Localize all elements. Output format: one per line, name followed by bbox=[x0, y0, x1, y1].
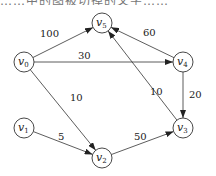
edge-weight-label: 30 bbox=[78, 50, 91, 61]
node-v4: v4 bbox=[173, 52, 193, 72]
arrow-icon bbox=[108, 31, 177, 120]
edge-weight-label: 10 bbox=[70, 92, 83, 103]
node-v1: v1 bbox=[14, 118, 34, 138]
node-v5: v5 bbox=[92, 13, 112, 33]
edge-weight-label: 100 bbox=[40, 28, 59, 39]
edge-weight-label: 50 bbox=[134, 131, 147, 142]
node-v2: v2 bbox=[92, 148, 112, 168]
edge-v3-v5 bbox=[108, 31, 177, 120]
edge-weight-label: 5 bbox=[58, 131, 64, 142]
node-v3: v3 bbox=[173, 118, 193, 138]
edge-weight-label: 60 bbox=[143, 27, 156, 38]
graph-diagram: 1003010550601020 v0v1v2v3v4v5 bbox=[0, 0, 216, 176]
edge-weight-label: 10 bbox=[150, 86, 163, 97]
node-v0: v0 bbox=[14, 52, 34, 72]
edge-weight-label: 20 bbox=[189, 89, 202, 100]
